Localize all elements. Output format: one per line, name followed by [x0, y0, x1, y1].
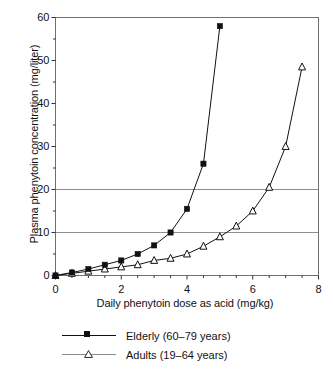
plot-area — [0, 0, 333, 371]
legend-key-elderly — [62, 329, 116, 343]
filled-square-icon — [84, 331, 90, 337]
axis-frame — [56, 18, 319, 276]
legend-label-adults: Adults (19–64 years) — [116, 349, 228, 361]
legend-item-adults: Adults (19–64 years) — [62, 345, 302, 364]
chart-legend: Elderly (60–79 years) Adults (19–64 year… — [62, 326, 302, 364]
legend-item-elderly: Elderly (60–79 years) — [62, 326, 302, 345]
axis-ticks — [52, 18, 319, 280]
legend-label-elderly: Elderly (60–79 years) — [116, 330, 231, 342]
open-triangle-icon — [84, 350, 93, 358]
chart-figure: Plasma phenytoin concentration (mg/liter… — [0, 0, 333, 371]
series-line-adults — [52, 63, 306, 278]
series-line-elderly — [53, 24, 223, 279]
legend-key-adults — [62, 348, 116, 362]
